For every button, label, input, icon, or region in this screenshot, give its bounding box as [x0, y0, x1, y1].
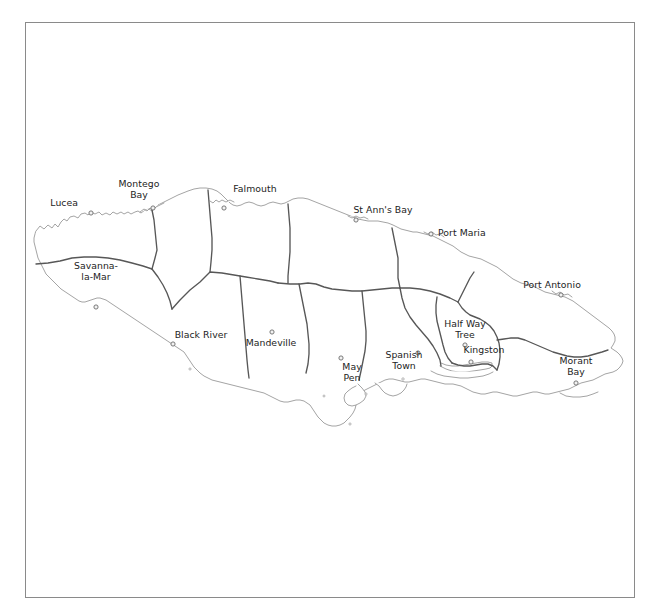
- city-label-morant-bay: MorantBay: [559, 356, 592, 377]
- city-label-port-maria: Port Maria: [438, 228, 486, 239]
- city-label-line: Morant: [559, 356, 592, 367]
- city-label-line: Tree: [444, 330, 486, 341]
- city-label-savanna-la-mar: Savanna-la-Mar: [74, 261, 118, 282]
- city-label-st-ann-s-bay: St Ann's Bay: [353, 205, 412, 216]
- city-label-line: Kingston: [464, 345, 505, 356]
- city-label-line: Lucea: [50, 198, 78, 209]
- city-label-port-antonio: Port Antonio: [523, 280, 581, 291]
- city-label-line: Port Maria: [438, 228, 486, 239]
- city-label-line: May: [342, 362, 361, 373]
- city-label-line: Port Antonio: [523, 280, 581, 291]
- city-label-line: Bay: [119, 190, 160, 201]
- city-label-line: la-Mar: [74, 272, 118, 283]
- city-label-line: Town: [385, 361, 422, 372]
- city-label-black-river: Black River: [175, 330, 228, 341]
- map-frame-border: [25, 22, 635, 598]
- city-label-line: Spanish: [385, 350, 422, 361]
- city-label-may-pen: MayPen: [342, 362, 361, 383]
- city-label-line: Falmouth: [233, 184, 276, 195]
- city-label-montego-bay: MontegoBay: [119, 179, 160, 200]
- city-label-line: Pen: [342, 373, 361, 384]
- city-label-line: Montego: [119, 179, 160, 190]
- city-label-line: Half Way: [444, 319, 486, 330]
- city-label-line: Savanna-: [74, 261, 118, 272]
- city-label-line: St Ann's Bay: [353, 205, 412, 216]
- city-label-lucea: Lucea: [50, 198, 78, 209]
- city-label-kingston: Kingston: [464, 345, 505, 356]
- city-label-half-way-tree: Half WayTree: [444, 319, 486, 340]
- city-label-mandeville: Mandeville: [246, 338, 297, 349]
- city-label-line: Bay: [559, 367, 592, 378]
- city-label-line: Mandeville: [246, 338, 297, 349]
- map-page: LuceaMontegoBayFalmouthSt Ann's BayPort …: [0, 0, 660, 616]
- city-label-line: Black River: [175, 330, 228, 341]
- city-label-falmouth: Falmouth: [233, 184, 276, 195]
- city-label-spanish-town: SpanishTown: [385, 350, 422, 371]
